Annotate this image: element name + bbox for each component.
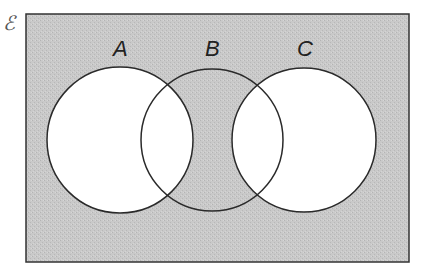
venn-diagram: ℰ A B C <box>0 0 425 279</box>
universal-set-symbol: ℰ <box>3 11 17 35</box>
set-a-label: A <box>111 36 128 61</box>
set-b-label: B <box>205 36 220 61</box>
set-c-label: C <box>297 36 313 61</box>
